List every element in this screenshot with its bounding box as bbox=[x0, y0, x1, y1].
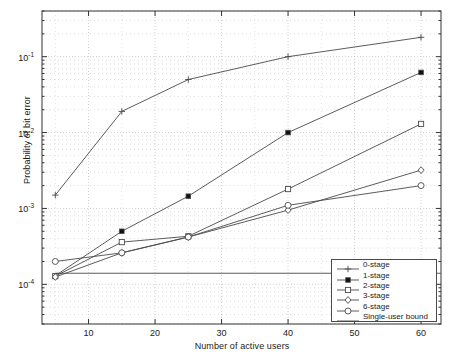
plain-line-marker bbox=[335, 312, 361, 322]
x-tick-label: 60 bbox=[406, 328, 436, 338]
x-tick-label: 10 bbox=[74, 328, 104, 338]
series-2-stage bbox=[53, 121, 424, 278]
x-tick-label: 20 bbox=[140, 328, 170, 338]
legend-item-single-user-bound[interactable]: Single-user bound bbox=[332, 312, 436, 322]
legend-label: 6-stage bbox=[361, 302, 390, 312]
legend-box: 0-stage1-stage2-stage3-stage6-stageSingl… bbox=[331, 259, 437, 322]
series-0-stage bbox=[52, 34, 424, 198]
legend-item-1-stage[interactable]: 1-stage bbox=[332, 270, 436, 280]
y-tick-label: 10-3 bbox=[4, 202, 34, 214]
y-tick-label: 10-4 bbox=[4, 278, 34, 290]
series-1-stage bbox=[53, 70, 423, 278]
legend-label: 2-stage bbox=[361, 281, 390, 291]
x-tick-label: 40 bbox=[273, 328, 303, 338]
legend-item-3-stage[interactable]: 3-stage bbox=[332, 291, 436, 301]
legend-item-2-stage[interactable]: 2-stage bbox=[332, 281, 436, 291]
legend-item-0-stage[interactable]: 0-stage bbox=[332, 260, 436, 270]
legend-label: 3-stage bbox=[361, 291, 390, 301]
x-tick-label: 30 bbox=[207, 328, 237, 338]
open-square-marker bbox=[335, 281, 361, 291]
filled-square-marker bbox=[335, 271, 361, 281]
open-circle-marker bbox=[335, 302, 361, 312]
y-tick-label: 10-2 bbox=[4, 127, 34, 139]
x-tick-label: 50 bbox=[340, 328, 370, 338]
x-axis-label: Number of active users bbox=[42, 341, 442, 351]
legend-item-6-stage[interactable]: 6-stage bbox=[332, 302, 436, 312]
plus-marker bbox=[335, 260, 361, 270]
legend-label: Single-user bound bbox=[361, 312, 428, 322]
open-diamond-marker bbox=[335, 291, 361, 301]
y-axis-label: Probability of bit error bbox=[22, 80, 32, 200]
legend-label: 1-stage bbox=[361, 271, 390, 281]
legend-label: 0-stage bbox=[361, 260, 390, 270]
y-tick-label: 10-1 bbox=[4, 51, 34, 63]
figure-container: Probability of bit error Number of activ… bbox=[0, 0, 459, 359]
